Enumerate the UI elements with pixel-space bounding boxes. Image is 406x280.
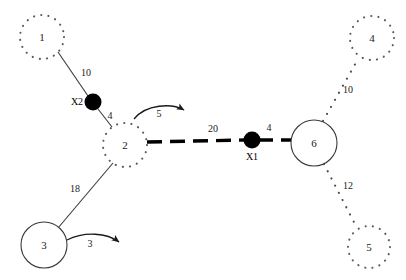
node-6[interactable]: 6	[291, 120, 337, 166]
diagram-canvas: 10 4 20 4 10 12 18	[0, 0, 406, 280]
node-4[interactable]: 4	[350, 16, 394, 60]
edge-node3-self-loop: 3	[67, 234, 119, 249]
edge-node1-x2: 10	[58, 52, 91, 96]
node-3[interactable]: 3	[21, 222, 67, 268]
node-label-3: 3	[41, 239, 47, 251]
graph-svg: 10 4 20 4 10 12 18	[0, 0, 406, 280]
node-label-5: 5	[366, 241, 372, 253]
node-5[interactable]: 5	[348, 226, 390, 268]
edge-label-n2-x1: 20	[208, 123, 218, 134]
edge-label-n1-x2: 10	[81, 67, 91, 78]
node-label-1: 1	[39, 31, 45, 43]
edge-node6-node4: 10	[323, 59, 358, 121]
edge-label-x2-n2: 4	[108, 110, 113, 121]
node-2[interactable]: 2	[103, 123, 147, 167]
edge-node3-node2: 18	[58, 163, 113, 228]
node-1[interactable]: 1	[20, 15, 64, 59]
edge-x2-node2: 4	[98, 109, 113, 127]
edge-label-n3-n2: 18	[70, 183, 80, 194]
edge-node6-node5: 12	[324, 164, 357, 228]
edge-label-n2-loop: 5	[157, 108, 162, 119]
factor-node-x1[interactable]: X1	[244, 132, 261, 163]
node-label-6: 6	[311, 137, 317, 149]
node-label-2: 2	[122, 139, 128, 151]
edge-label-n6-n4: 10	[343, 84, 353, 95]
edge-node2-x1: 20	[147, 123, 244, 142]
factor-label-x1: X1	[246, 151, 258, 162]
factor-node-x2[interactable]: X2	[71, 94, 102, 111]
edge-label-n3-loop: 3	[88, 238, 93, 249]
node-label-4: 4	[369, 32, 375, 44]
factor-label-x2: X2	[71, 96, 83, 107]
edge-node2-self-loop: 5	[134, 106, 184, 119]
edge-x1-node6: 4	[258, 122, 291, 140]
edge-label-x1-n6: 4	[267, 122, 272, 133]
edge-label-n6-n5: 12	[343, 180, 353, 191]
